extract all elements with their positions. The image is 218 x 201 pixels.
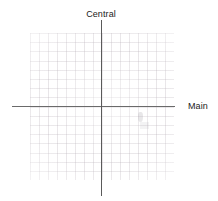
diagram-canvas: Central Main xyxy=(0,0,218,201)
vertical-axis-label: Central xyxy=(0,9,202,20)
horizontal-axis-line xyxy=(12,106,175,107)
vertical-axis-line xyxy=(101,20,102,196)
faint-artifact-mark-secondary xyxy=(140,122,149,129)
horizontal-axis-label: Main xyxy=(188,101,208,112)
faint-artifact-mark xyxy=(138,112,143,122)
